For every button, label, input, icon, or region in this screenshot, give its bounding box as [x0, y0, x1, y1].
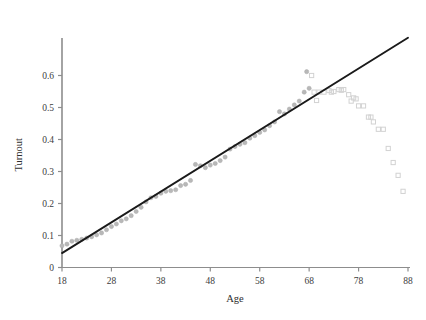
- series-filled-points: [60, 70, 311, 248]
- x-axis-title: Age: [226, 293, 244, 304]
- y-tick-label: 0.1: [42, 231, 54, 241]
- y-axis-title: Turnout: [13, 138, 24, 172]
- data-point: [347, 93, 351, 97]
- y-tick-label: 0: [49, 263, 54, 273]
- x-tick-label: 88: [403, 276, 413, 286]
- data-point: [386, 146, 390, 150]
- data-point: [371, 120, 375, 124]
- data-point: [134, 209, 138, 213]
- data-point: [223, 155, 227, 159]
- data-point: [99, 231, 103, 235]
- regression-line: [62, 38, 408, 253]
- data-point: [391, 160, 395, 164]
- data-point: [305, 70, 309, 74]
- data-point: [376, 127, 380, 131]
- data-point: [277, 110, 281, 114]
- data-point: [314, 98, 318, 102]
- data-point: [218, 159, 222, 163]
- data-point: [381, 127, 385, 131]
- data-point: [124, 217, 128, 221]
- y-tick-label: 0.2: [42, 199, 54, 209]
- data-point: [312, 90, 316, 94]
- scatter-plot-svg: 00.10.20.30.40.50.61828384858687888AgeTu…: [0, 0, 426, 320]
- data-point: [60, 244, 64, 248]
- data-point: [396, 173, 400, 177]
- chart-figure: 00.10.20.30.40.50.61828384858687888AgeTu…: [0, 0, 426, 320]
- data-point: [203, 166, 207, 170]
- data-point: [179, 183, 183, 187]
- data-point: [65, 242, 69, 246]
- data-point: [193, 162, 197, 166]
- data-point: [119, 219, 123, 223]
- data-point: [356, 104, 360, 108]
- data-point: [213, 161, 217, 165]
- x-tick-label: 48: [206, 276, 216, 286]
- data-point: [183, 182, 187, 186]
- data-point: [70, 239, 74, 243]
- x-tick-label: 58: [255, 276, 265, 286]
- series-open-points: [310, 73, 406, 193]
- data-point: [361, 104, 365, 108]
- data-point: [114, 222, 118, 226]
- data-point: [401, 189, 405, 193]
- x-tick-label: 38: [156, 276, 166, 286]
- x-tick-label: 68: [304, 276, 314, 286]
- data-point: [75, 238, 79, 242]
- y-tick-label: 0.5: [42, 103, 54, 113]
- y-tick-label: 0.6: [42, 71, 54, 81]
- data-point: [109, 224, 113, 228]
- data-point: [169, 189, 173, 193]
- data-point: [104, 228, 108, 232]
- data-point: [310, 73, 314, 77]
- data-point: [307, 86, 311, 90]
- data-point: [297, 99, 301, 103]
- x-tick-label: 28: [107, 276, 117, 286]
- y-tick-label: 0.3: [42, 167, 54, 177]
- y-tick-label: 0.4: [42, 135, 54, 145]
- x-tick-label: 18: [57, 276, 67, 286]
- data-point: [188, 178, 192, 182]
- data-point: [292, 103, 296, 107]
- data-point: [129, 214, 133, 218]
- x-tick-label: 78: [354, 276, 364, 286]
- data-point: [208, 163, 212, 167]
- data-point: [174, 188, 178, 192]
- data-point: [302, 90, 306, 94]
